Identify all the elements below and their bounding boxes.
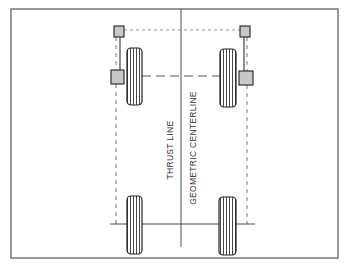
sensor-front-left-large — [111, 70, 124, 84]
geometric-centerline-label: GEOMETRIC CENTERLINE — [188, 91, 198, 205]
sensor-front-right-large — [239, 71, 253, 85]
tire-front-left — [127, 48, 142, 105]
tire-rear-right — [219, 197, 236, 255]
wheel-alignment-diagram: THRUST LINE GEOMETRIC CENTERLINE — [0, 0, 345, 267]
tire-rear-left — [127, 196, 142, 254]
thrust-line-label: THRUST LINE — [165, 121, 175, 180]
tire-front-right — [220, 49, 236, 107]
sensor-front-left-small — [114, 26, 124, 37]
sensor-front-right-small — [240, 26, 250, 37]
